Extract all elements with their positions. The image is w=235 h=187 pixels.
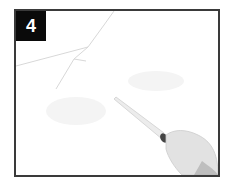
step-image-frame: 4 bbox=[14, 9, 220, 177]
knife-blade-icon bbox=[114, 97, 164, 139]
knife-cutting-scene bbox=[16, 11, 218, 175]
step-number-badge: 4 bbox=[16, 11, 46, 41]
